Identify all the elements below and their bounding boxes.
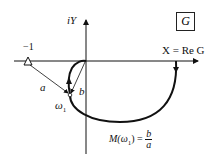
omega1-label: ω1	[55, 100, 66, 114]
omega1-point	[68, 93, 72, 97]
curve-arrow-left	[66, 77, 72, 84]
critical-point-label: −1	[23, 42, 34, 52]
curve-arrow-right	[173, 67, 179, 73]
magnitude-formula: M(ω1) = ba	[109, 129, 152, 150]
vector-b-label: b	[79, 86, 85, 97]
x-axis-label: X = Re G	[162, 45, 205, 56]
vector-a	[30, 65, 68, 93]
transfer-function-box: G	[176, 12, 195, 31]
y-axis-label: iY	[67, 15, 76, 26]
vector-a-label: a	[40, 82, 46, 93]
fraction-b-over-a: ba	[145, 129, 152, 150]
